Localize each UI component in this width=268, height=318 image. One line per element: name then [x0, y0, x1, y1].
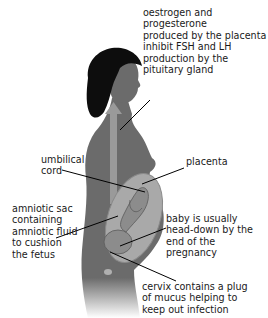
- label-placenta: placenta: [186, 156, 256, 167]
- cervix: [104, 269, 112, 275]
- label-cervix: cervix contains a plug of mucus helping …: [142, 281, 262, 315]
- label-umbilical-cord: umbilical cord: [41, 154, 101, 177]
- pregnancy-diagram: oestrogen and progesterone produced by t…: [0, 0, 268, 318]
- label-baby-position: baby is usually head-down by the end of …: [166, 213, 266, 259]
- label-amniotic-sac: amniotic sac containing amniotic fluid t…: [12, 203, 92, 260]
- label-hormones: oestrogen and progesterone produced by t…: [143, 7, 267, 75]
